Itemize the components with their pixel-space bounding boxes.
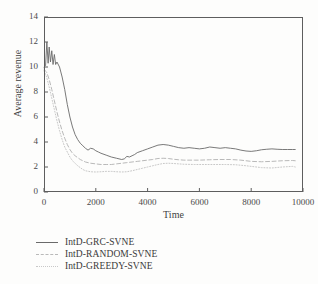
x-tick-label: 0: [24, 198, 64, 207]
y-axis-title: Average revenue: [12, 39, 23, 129]
legend-item: IntD-GREEDY-SVNE: [36, 260, 276, 272]
legend-line-sample-dashed: [36, 250, 58, 258]
x-tick-label: 4000: [128, 198, 168, 207]
plot-area: [44, 17, 303, 192]
x-tick-label: 6000: [179, 198, 219, 207]
figure-container: 02468101214 0200040006000800010000 Avera…: [0, 0, 318, 284]
y-tick-label: 14: [8, 12, 38, 21]
legend-line-sample-solid: [36, 238, 58, 246]
x-tick-label: 2000: [76, 198, 116, 207]
x-tick-label: 8000: [231, 198, 271, 207]
legend-item: IntD-RANDOM-SVNE: [36, 248, 276, 260]
chart-legend: IntD-GRC-SVNE IntD-RANDOM-SVNE IntD-GREE…: [36, 236, 276, 272]
legend-item-label: IntD-GRC-SVNE: [65, 237, 134, 247]
legend-line-sample-dotted: [36, 262, 58, 270]
x-axis-title: Time: [44, 209, 303, 220]
y-tick-label: 4: [8, 137, 38, 146]
y-tick-label: 2: [8, 162, 38, 171]
legend-item: IntD-GRC-SVNE: [36, 236, 276, 248]
legend-item-label: IntD-RANDOM-SVNE: [65, 249, 157, 259]
legend-item-label: IntD-GREEDY-SVNE: [65, 261, 153, 271]
y-tick-label: 0: [8, 187, 38, 196]
x-tick-label: 10000: [283, 198, 318, 207]
